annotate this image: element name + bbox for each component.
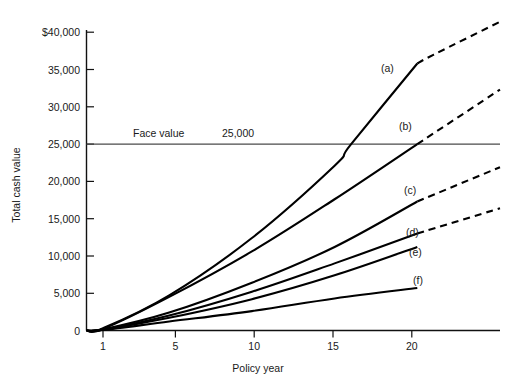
y-tick-label-0: 0	[74, 325, 80, 337]
curve-b-dashed	[417, 90, 500, 144]
curve-a-dashed	[417, 22, 500, 64]
face-value-number: 25,000	[222, 127, 254, 139]
curve-label-c: (c)	[404, 184, 416, 196]
cash-value-chart: $40,000 35,000 30,000 25,000 20,000 15,0…	[0, 0, 512, 382]
curve-c-dashed	[417, 167, 500, 201]
y-tick-label-25000: 25,000	[48, 138, 80, 150]
x-tick-label-1: 1	[100, 340, 106, 352]
x-tick-label-15: 15	[327, 340, 339, 352]
y-tick-label-20000: 20,000	[48, 175, 80, 187]
face-value-label: Face value	[133, 127, 185, 139]
y-tick-label-5000: 5,000	[54, 287, 80, 299]
y-tick-label-15000: 15,000	[48, 213, 80, 225]
x-tick-label-20: 20	[406, 340, 418, 352]
curve-d-dashed	[417, 208, 500, 233]
y-tick-label-30000: 30,000	[48, 101, 80, 113]
x-axis-title: Policy year	[232, 362, 284, 374]
y-tick-label-40000: $40,000	[42, 26, 80, 38]
curve-label-f: (f)	[413, 274, 423, 286]
curve-label-d: (d)	[406, 226, 419, 238]
curve-label-a: (a)	[381, 62, 394, 74]
y-axis-ticks	[87, 32, 95, 293]
y-tick-label-35000: 35,000	[48, 64, 80, 76]
x-tick-label-10: 10	[248, 340, 260, 352]
curve-e-solid	[87, 247, 418, 331]
curve-label-e: (e)	[409, 246, 422, 258]
x-tick-label-5: 5	[172, 340, 178, 352]
y-axis-title: Total cash value	[10, 147, 22, 222]
curve-label-b: (b)	[399, 120, 412, 132]
y-tick-label-10000: 10,000	[48, 250, 80, 262]
x-axis-ticks	[103, 331, 412, 338]
chart-svg: $40,000 35,000 30,000 25,000 20,000 15,0…	[0, 0, 512, 382]
series-paths	[87, 22, 501, 332]
